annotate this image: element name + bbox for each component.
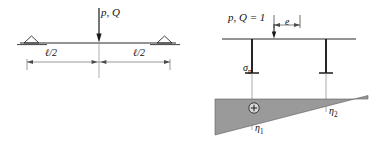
dimension-arrow-centre-right [100,60,106,64]
load-arrow-head [96,34,101,43]
ordinate-label-eta2: η2 [329,106,338,119]
eccentricity-label: e [285,17,289,27]
influence-area-shaded [215,96,368,136]
dimension-line-group [27,59,170,70]
eta1-subscript: 1 [260,128,264,136]
dimension-arrow-left-end [27,60,33,64]
stress-label: σn [243,63,252,76]
dimension-arrow-centre-left [92,60,98,64]
plus-sign-badge [249,103,259,113]
support-right-triangle [157,36,172,43]
dimension-arrow-right-end [164,60,170,64]
figure-canvas: p, Q ℓ/2 ℓ/2 p, Q = 1 e σn η1 η2 [0,0,378,141]
unit-load-arrow-head [272,32,276,39]
dimension-label-left: ℓ/2 [45,48,57,58]
right-influence-group [215,15,368,135]
dimension-label-right: ℓ/2 [133,48,145,58]
stress-label-subscript: n [248,68,252,76]
eccentricity-arrow-left [274,23,280,27]
eta2-subscript: 2 [334,111,338,119]
load-label-left: p, Q [101,7,120,18]
support-left-triangle [24,36,39,43]
eccentricity-arrow-right [294,23,300,27]
unit-load-label: p, Q = 1 [228,12,265,23]
left-beam-group [17,8,180,78]
ordinate-label-eta1: η1 [255,123,264,136]
diagram-vector-layer [0,0,378,141]
